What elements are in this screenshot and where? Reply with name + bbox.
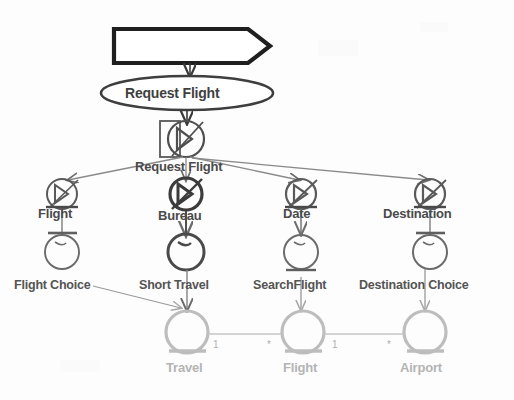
diagram-graphics [0, 0, 514, 400]
object-icon-destination-choice [413, 235, 447, 269]
root-task-icon [160, 121, 204, 157]
object-icon-search-flight [284, 235, 318, 270]
task-label-flight: Flight [38, 207, 72, 220]
root-task-label: Request Flight [135, 160, 222, 173]
object-label-flight-choice: Flight Choice [14, 279, 91, 292]
entity-label-travel: Travel [166, 361, 202, 374]
multiplicity-travel-flight-to: * [267, 340, 271, 350]
task-icon-date [285, 179, 317, 209]
task-label-bureau: Bureau [158, 209, 202, 222]
entity-icon-airport [404, 311, 446, 353]
diagram-canvas: Request Flight Request Flight Flight Bur… [0, 0, 514, 400]
object-icon-flight-choice [45, 235, 79, 269]
entity-label-airport: Airport [400, 361, 442, 374]
task-icon-destination [414, 179, 446, 209]
object-label-destination-choice: Destination Choice [359, 279, 469, 292]
task-label-date: Date [283, 207, 310, 220]
entity-icon-travel [166, 311, 208, 353]
object-label-short-travel: Short Travel [139, 279, 209, 292]
usecase-label: Request Flight [125, 86, 219, 100]
start-banner-icon [114, 29, 270, 63]
task-icon-bureau [170, 178, 202, 210]
entity-icon-flight [282, 311, 324, 353]
multiplicity-flight-airport-from: 1 [332, 340, 337, 350]
task-label-destination: Destination [383, 207, 452, 220]
object-label-search-flight: SearchFlight [253, 279, 326, 292]
multiplicity-flight-airport-to: * [387, 340, 391, 350]
multiplicity-travel-flight-from: 1 [213, 340, 218, 350]
connector-fanout [68, 157, 428, 180]
task-icon-flight [46, 179, 78, 209]
entity-label-flight: Flight [283, 361, 317, 374]
object-icon-short-travel [168, 234, 204, 270]
